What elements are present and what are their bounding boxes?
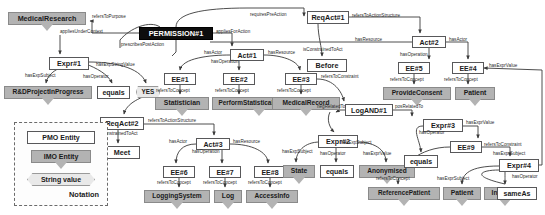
node-label-act1: Act#1 xyxy=(237,52,256,59)
edge-label-13: hasExprValue xyxy=(489,64,517,69)
node-equals3[interactable]: equals xyxy=(404,155,438,168)
node-label-equals2: equals xyxy=(326,168,348,175)
logand1-to-expr3 xyxy=(393,110,412,116)
edge-label-33: refersToConstraint xyxy=(484,143,522,148)
node-label-yes: YES xyxy=(142,89,155,95)
edge-label-15: hasOperator xyxy=(83,75,109,80)
node-referencepatient[interactable]: ReferencePatient xyxy=(368,187,440,200)
reqact2-to-act3 xyxy=(144,124,214,135)
node-expr4[interactable]: Expr#4 xyxy=(499,159,539,172)
node-ee5[interactable]: EE#5 xyxy=(398,62,430,74)
legend-notation-text: Notation xyxy=(69,190,99,199)
edge-label-30: hasExprValue xyxy=(466,121,494,126)
node-label-ee6: EE#6 xyxy=(170,169,187,176)
legend-box: PMO Entity IMO Entity String value Notat… xyxy=(14,122,108,206)
node-label-ee1: EE#1 xyxy=(171,76,188,83)
legend-string-label: String value xyxy=(41,176,81,183)
node-label-provideconsent: ProvideConsent xyxy=(392,90,443,97)
node-ee1[interactable]: EE#1 xyxy=(164,73,196,85)
node-label-statistician: Statistician xyxy=(164,100,200,107)
legend-string-value: String value xyxy=(27,173,95,186)
node-ee8[interactable]: EE#8 xyxy=(254,166,286,178)
node-state[interactable]: State xyxy=(283,165,315,178)
edge-label-39: refersToConcept xyxy=(376,177,410,182)
node-ee6[interactable]: EE#6 xyxy=(163,166,195,178)
edge-label-21: refersToConcept xyxy=(390,78,424,83)
node-loggingsystem[interactable]: LoggingSystem xyxy=(144,190,210,203)
node-label-patient1: Patient xyxy=(464,90,487,97)
edge-label-10: isConstrainedToAct xyxy=(303,48,343,53)
logand1-neg-stub xyxy=(336,110,345,112)
edge-label-12: hasOperation xyxy=(400,53,428,58)
edge-label-11: hasOperation xyxy=(211,60,239,65)
node-ee9[interactable]: EE#9 xyxy=(450,141,482,153)
edge-label-19: refersToConcept xyxy=(215,89,249,94)
node-equals2[interactable]: equals xyxy=(320,165,354,178)
expr4-instance-link xyxy=(482,170,505,184)
node-label-rdproject: R&DProjectInProgress xyxy=(12,89,83,96)
node-patient2[interactable]: Patient xyxy=(443,187,481,200)
edge-label-2: appliesUnderContext xyxy=(60,30,103,35)
node-medicalresearch[interactable]: MedicalResearch xyxy=(8,12,86,25)
node-patient1[interactable]: Patient xyxy=(455,87,495,100)
node-label-expr4: Expr#4 xyxy=(507,162,531,169)
node-label-reqact1: ReqAct#1 xyxy=(311,14,344,21)
expr3-to-ee9 xyxy=(463,126,478,138)
node-act2[interactable]: Act#2 xyxy=(412,36,446,48)
node-label-ee3: EE#3 xyxy=(292,76,309,83)
node-label-ee9: EE#9 xyxy=(457,144,474,151)
node-ee4[interactable]: EE#4 xyxy=(452,62,484,74)
node-statistician[interactable]: Statistician xyxy=(155,97,209,110)
logand1-to-expr2 xyxy=(328,112,334,132)
edge-label-16: hasExpStringValue xyxy=(96,63,135,68)
permission-to-act1 xyxy=(213,33,232,46)
node-label-equals1: equals xyxy=(102,89,124,96)
edge-label-20: refersToConcept xyxy=(277,89,311,94)
node-label-permission1: PERMISSION#1 xyxy=(149,30,204,37)
node-label-log: Log xyxy=(222,193,234,200)
node-reqact1[interactable]: ReqAct#1 xyxy=(307,11,349,24)
node-label-act2: Act#2 xyxy=(419,39,438,46)
edge-label-32: hasExpSubject xyxy=(341,141,372,146)
edge-label-22: refersToConcept xyxy=(444,78,478,83)
node-before[interactable]: Before xyxy=(307,59,347,72)
edge-label-34: hasExpSubject xyxy=(282,150,313,155)
node-label-anonymised: Anonymised xyxy=(367,168,407,175)
node-provideconsent[interactable]: ProvideConsent xyxy=(383,87,451,100)
node-equals1[interactable]: equals xyxy=(97,86,130,99)
edge-label-0: refersToPurpose xyxy=(92,15,126,20)
edge-label-18: refersToConcept xyxy=(156,89,190,94)
edge-label-35: hasOperator xyxy=(320,152,346,157)
node-label-ee8: EE#8 xyxy=(261,169,278,176)
node-log[interactable]: Log xyxy=(214,190,242,203)
reqact1-to-act2 xyxy=(349,17,420,33)
node-logand1[interactable]: LogAND#1 xyxy=(345,104,393,116)
edge-label-37: hasExprSubject xyxy=(493,152,525,157)
node-permission1[interactable]: PERMISSION#1 xyxy=(139,27,213,40)
node-label-meet: Meet xyxy=(114,149,130,156)
node-ee2[interactable]: EE#2 xyxy=(223,73,255,85)
node-meet[interactable]: Meet xyxy=(104,146,140,159)
node-label-reqact2: ReqAct#2 xyxy=(105,120,138,127)
node-ee3[interactable]: EE#3 xyxy=(285,73,317,85)
edge-label-3: appliesForAction xyxy=(216,30,250,35)
node-label-referencepatient: ReferencePatient xyxy=(378,190,430,196)
node-label-expr3: Expr#3 xyxy=(431,122,455,129)
node-label-logand1: LogAND#1 xyxy=(351,107,387,114)
node-rdproject[interactable]: R&DProjectInProgress xyxy=(4,86,92,99)
edge-label-43: refersToConcept xyxy=(248,181,282,186)
node-label-ee7: EE#7 xyxy=(216,169,233,176)
edge-label-41: refersToConcept xyxy=(157,181,191,186)
edge-label-28: hasResource xyxy=(233,140,260,145)
node-label-sameas: sameAs xyxy=(504,190,531,197)
node-label-act3: Act#3 xyxy=(203,141,222,148)
node-accessinfo[interactable]: AccessInfo xyxy=(246,190,298,203)
node-sameas[interactable]: sameAs xyxy=(497,187,537,200)
node-ee7[interactable]: EE#7 xyxy=(209,166,241,178)
node-label-expr1: Expr#1 xyxy=(57,60,81,67)
node-label-patient2: Patient xyxy=(451,190,474,197)
node-label-state: State xyxy=(291,168,308,175)
node-expr1[interactable]: Expr#1 xyxy=(49,57,89,70)
act2-to-ee4 xyxy=(446,42,468,59)
edge-label-31: hasOperator xyxy=(419,131,445,136)
